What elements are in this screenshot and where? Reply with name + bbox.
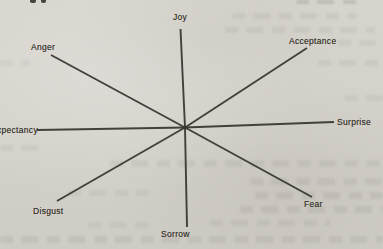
axis-line-disgust bbox=[57, 128, 185, 202]
axis-line-sorrow bbox=[185, 128, 187, 228]
axis-label-anger: Anger bbox=[31, 42, 55, 52]
axis-label-joy: Joy bbox=[173, 12, 187, 22]
scanned-page: Joy Acceptance Surprise Fear Sorrow Disg… bbox=[0, 0, 383, 249]
axis-line-fear bbox=[185, 128, 312, 198]
axis-line-acceptance bbox=[185, 48, 307, 128]
axis-label-acceptance: Acceptance bbox=[289, 36, 336, 46]
axis-label-fear: Fear bbox=[304, 199, 323, 209]
axis-line-anger bbox=[51, 55, 185, 128]
axis-line-joy bbox=[181, 29, 186, 128]
axis-label-sorrow: Sorrow bbox=[161, 229, 190, 239]
axis-label-expectancy: Expectancy bbox=[0, 125, 38, 135]
axis-label-surprise: Surprise bbox=[337, 117, 371, 127]
axis-line-expectancy bbox=[37, 128, 185, 131]
axis-label-disgust: Disgust bbox=[33, 206, 63, 216]
axis-line-surprise bbox=[185, 122, 334, 128]
